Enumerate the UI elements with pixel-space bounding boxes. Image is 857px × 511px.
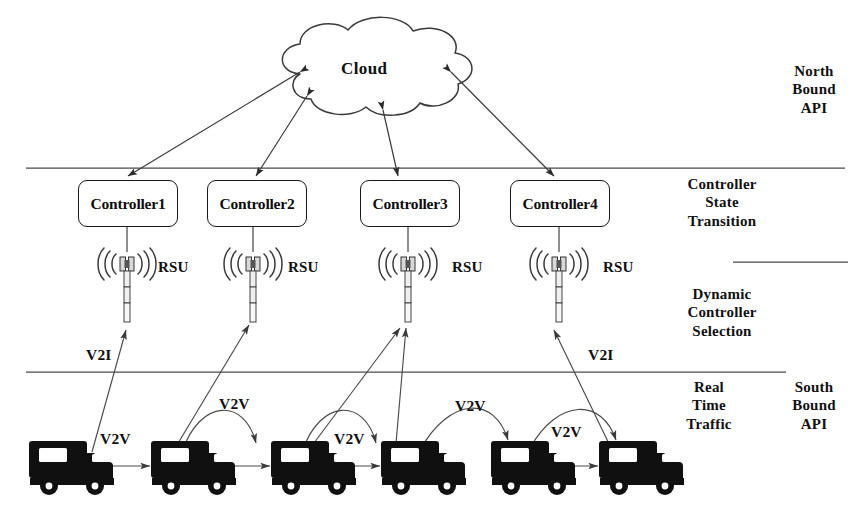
v2i-link-2 [168,325,249,460]
controller-label-4: Controller4 [523,195,598,213]
north-bound-api-label: North Bound API [776,62,852,117]
controller-label-3: Controller3 [373,195,448,213]
link-cloud-controller3 [383,110,398,176]
link-cloud-controller4 [451,72,554,176]
v2v-label-2: V2V [219,395,250,414]
v2i-link-4 [395,328,406,455]
vehicle-3 [271,441,356,495]
v2v-label-1: V2V [100,430,131,449]
link-cloud-controller2 [256,96,307,176]
vehicle-2 [151,441,236,495]
v2i-label-right: V2I [588,346,614,365]
vehicle-6 [599,441,684,495]
controller-box-3[interactable]: Controller3 [360,180,460,227]
rsu-label-4: RSU [603,258,634,276]
controller-label-2: Controller2 [220,195,295,213]
vehicle-5 [491,441,576,495]
v2v-label-4: V2V [455,397,486,416]
vehicle-4 [381,441,466,495]
link-cloud-controller1 [128,72,300,176]
rsu-tower-3 [379,248,437,322]
cloud-label: Cloud [341,59,387,80]
controller-box-1[interactable]: Controller1 [78,180,178,227]
rsu-label-2: RSU [288,258,319,276]
vehicle-1 [29,441,114,495]
controller-box-2[interactable]: Controller2 [207,180,307,227]
rsu-label-3: RSU [452,258,483,276]
dynamic-controller-selection-label: Dynamic Controller Selection [672,285,772,340]
rsu-tower-2 [224,248,282,322]
rsu-tower-4 [530,248,588,322]
controller-state-transition-label: Controller State Transition [672,175,772,230]
real-time-traffic-label: Real Time Traffic [672,378,746,433]
south-bound-api-label: South Bound API [776,378,852,433]
v2v-label-3: V2V [334,430,365,449]
controller-rsu-stems [127,226,559,252]
controller-box-4[interactable]: Controller4 [510,180,610,227]
diagram-canvas: Cloud Controller1 Controller2 Controller… [0,0,857,511]
rsu-tower-1 [98,248,156,322]
v2v-label-5: V2V [551,423,582,442]
rsu-label-1: RSU [158,258,189,276]
controller-label-1: Controller1 [91,195,166,213]
v2i-label-left: V2I [86,346,112,365]
